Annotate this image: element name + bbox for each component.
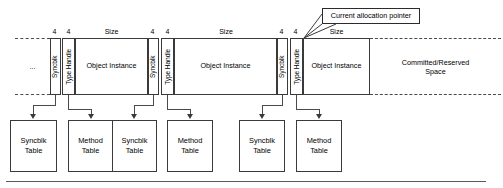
band-object-instance-2-label: Object Instance — [201, 62, 251, 70]
connector-typehandle-1-arrowhead — [88, 114, 94, 119]
table-box-method-2-label: Method Table — [178, 136, 203, 156]
measure-label-size-3: Size — [303, 28, 370, 35]
connector-typehandle-2-vertical — [167, 95, 168, 109]
connector-typehandle-2-horizontal — [167, 109, 191, 110]
band-syncblk-1-label: Syncblk — [52, 55, 60, 77]
diagram-canvas: Current allocation pointer 4 4 Size 4 4 … — [0, 0, 503, 188]
connector-syncblk-3-vertical — [282, 95, 283, 105]
band-object-instance-1[interactable]: Object Instance — [75, 38, 148, 95]
measure-label-syncblk-3: 4 — [275, 28, 288, 35]
current-allocation-pointer-callout: Current allocation pointer — [322, 8, 420, 24]
ellipsis-label: ... — [30, 62, 36, 71]
table-box-method-1-label: Method Table — [78, 136, 103, 156]
band-object-instance-3-label: Object Instance — [312, 62, 362, 70]
connector-syncblk-3-horizontal — [262, 105, 283, 106]
band-syncblk-3[interactable]: Syncblk — [277, 38, 288, 95]
band-type-handle-3[interactable]: Type Handle — [290, 38, 303, 95]
heap-region-before: ... — [15, 38, 50, 95]
band-object-instance-2[interactable]: Object Instance — [174, 38, 277, 95]
measure-label-size-1: Size — [75, 28, 148, 35]
band-type-handle-3-label: Type Handle — [293, 49, 301, 85]
footer-divider — [6, 181, 486, 182]
connector-typehandle-3-horizontal — [296, 109, 320, 110]
table-box-method-1[interactable]: Method Table — [68, 120, 113, 172]
measure-label-syncblk-1: 4 — [48, 28, 61, 35]
measure-label-typehandle-1: 4 — [62, 28, 75, 35]
table-box-syncblk-3-label: Syncblk Table — [249, 136, 275, 156]
connector-typehandle-1-horizontal — [68, 109, 92, 110]
connector-syncblk-3-arrowhead — [259, 114, 265, 119]
connector-syncblk-2-horizontal — [134, 105, 154, 106]
band-committed-reserved-space[interactable]: Committed/Reserved Space — [370, 38, 501, 95]
measure-label-typehandle-3: 4 — [289, 28, 302, 35]
band-object-instance-3[interactable]: Object Instance — [303, 38, 370, 95]
connector-syncblk-1-vertical — [55, 95, 56, 105]
measure-label-size-2: Size — [175, 28, 277, 35]
connector-typehandle-3-vertical — [296, 95, 297, 109]
band-committed-reserved-space-label: Committed/Reserved Space — [402, 58, 470, 76]
table-box-method-2[interactable]: Method Table — [167, 120, 213, 172]
table-box-syncblk-2-label: Syncblk Table — [122, 136, 148, 156]
band-syncblk-1[interactable]: Syncblk — [50, 38, 61, 95]
measure-label-typehandle-2: 4 — [161, 28, 174, 35]
band-type-handle-1[interactable]: Type Handle — [62, 38, 75, 95]
connector-typehandle-3-arrowhead — [316, 114, 322, 119]
band-type-handle-1-label: Type Handle — [65, 49, 73, 85]
table-box-method-3-label: Method Table — [307, 136, 332, 156]
band-type-handle-2-label: Type Handle — [164, 49, 172, 85]
table-box-syncblk-1-label: Syncblk Table — [21, 136, 47, 156]
connector-syncblk-2-vertical — [153, 95, 154, 105]
band-syncblk-3-label: Syncblk — [279, 55, 287, 77]
band-syncblk-2-label: Syncblk — [150, 55, 158, 77]
callout-label: Current allocation pointer — [331, 12, 411, 19]
band-object-instance-1-label: Object Instance — [87, 62, 137, 70]
connector-syncblk-2-arrowhead — [131, 114, 137, 119]
table-box-syncblk-3[interactable]: Syncblk Table — [239, 120, 285, 172]
table-box-syncblk-2[interactable]: Syncblk Table — [112, 120, 157, 172]
connector-syncblk-1-horizontal — [33, 105, 56, 106]
table-box-method-3[interactable]: Method Table — [296, 120, 342, 172]
connector-syncblk-1-arrowhead — [30, 114, 36, 119]
connector-typehandle-1-vertical — [68, 95, 69, 109]
band-syncblk-2[interactable]: Syncblk — [148, 38, 159, 95]
band-type-handle-2[interactable]: Type Handle — [161, 38, 174, 95]
connector-typehandle-2-arrowhead — [187, 114, 193, 119]
table-box-syncblk-1[interactable]: Syncblk Table — [10, 120, 57, 172]
measure-label-syncblk-2: 4 — [146, 28, 159, 35]
